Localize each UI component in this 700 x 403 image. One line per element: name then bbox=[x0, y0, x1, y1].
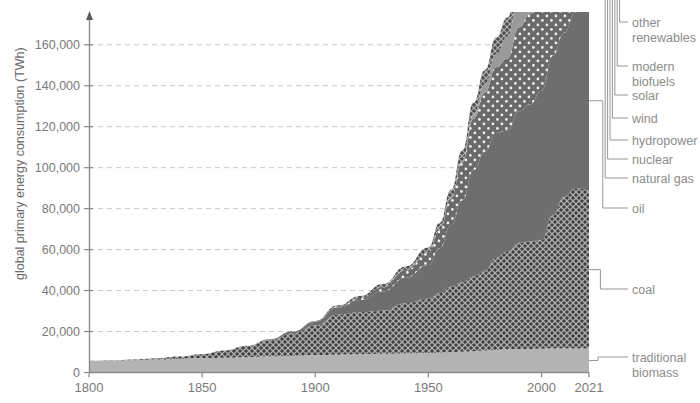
y-tick-label: 0 bbox=[73, 366, 80, 380]
x-tick-label: 2000 bbox=[527, 380, 556, 395]
x-tick-label: 1950 bbox=[414, 380, 443, 395]
y-tick-label: 60,000 bbox=[42, 243, 80, 257]
legend-label-coal[interactable]: coal bbox=[632, 283, 655, 297]
legend-label-modern-biofuels[interactable]: modern bbox=[632, 60, 674, 74]
legend-label-oil[interactable]: oil bbox=[632, 202, 645, 216]
x-tick-label: 2021 bbox=[575, 380, 604, 395]
legend-leader-lines bbox=[589, 0, 628, 361]
y-axis-ticks: 020,00040,00060,00080,000100,000120,0001… bbox=[35, 38, 93, 380]
leader-line-hydropower bbox=[589, 0, 628, 140]
y-tick-label: 40,000 bbox=[42, 284, 80, 298]
leader-line-solar bbox=[589, 0, 628, 95]
y-tick-label: 100,000 bbox=[35, 161, 80, 175]
y-tick-label: 140,000 bbox=[35, 79, 80, 93]
x-tick-label: 1900 bbox=[301, 380, 330, 395]
x-tick-label: 1800 bbox=[75, 380, 104, 395]
leader-line-other-renewables bbox=[589, 0, 628, 22]
legend-label-nuclear[interactable]: nuclear bbox=[632, 153, 673, 167]
leader-line-oil bbox=[589, 101, 628, 208]
stacked-areas bbox=[89, 0, 589, 373]
legend-label-modern-biofuels-line2[interactable]: biofuels bbox=[632, 75, 675, 89]
legend-label-other-renewables[interactable]: other bbox=[632, 16, 661, 30]
x-tick-label: 1850 bbox=[188, 380, 217, 395]
leader-line-nuclear bbox=[589, 0, 628, 159]
legend-label-wind[interactable]: wind bbox=[631, 112, 658, 126]
legend-labels: otherrenewablesmodernbiofuelssolarwindhy… bbox=[631, 16, 697, 380]
leader-line-modern-biofuels bbox=[589, 0, 628, 66]
legend-label-other-renewables-line2[interactable]: renewables bbox=[632, 31, 696, 45]
y-tick-label: 20,000 bbox=[42, 325, 80, 339]
leader-line-coal bbox=[589, 270, 628, 289]
leader-line-traditional-biomass bbox=[589, 357, 628, 361]
leader-line-natural-gas bbox=[589, 0, 628, 178]
legend-label-traditional-biomass-line2[interactable]: biomass bbox=[632, 366, 679, 380]
y-tick-label: 80,000 bbox=[42, 202, 80, 216]
y-axis-title: global primary energy consumption (TWh) bbox=[13, 47, 27, 280]
y-tick-label: 120,000 bbox=[35, 120, 80, 134]
y-tick-label: 160,000 bbox=[35, 38, 80, 52]
y-axis-arrow bbox=[86, 11, 93, 20]
energy-consumption-chart: 020,00040,00060,00080,000100,000120,0001… bbox=[0, 0, 700, 403]
legend-label-solar[interactable]: solar bbox=[632, 89, 659, 103]
legend-label-hydropower[interactable]: hydropower bbox=[632, 134, 697, 148]
x-axis-ticks: 180018501900195020002021 bbox=[75, 373, 604, 395]
legend-label-natural-gas[interactable]: natural gas bbox=[632, 172, 694, 186]
chart-canvas: 020,00040,00060,00080,000100,000120,0001… bbox=[0, 0, 700, 403]
legend-label-traditional-biomass[interactable]: traditional bbox=[632, 351, 686, 365]
